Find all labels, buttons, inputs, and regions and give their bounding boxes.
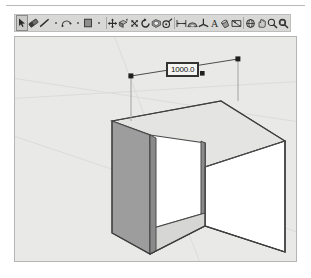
chevron-down-icon [98, 22, 100, 24]
tool-protractor[interactable] [187, 15, 198, 31]
dimension-value-box[interactable]: 1000.0 [166, 62, 199, 77]
tool-eraser[interactable] [28, 15, 39, 31]
line-icon [39, 18, 50, 28]
tool-pan[interactable] [256, 15, 267, 31]
tool-rectangle-dropdown[interactable] [94, 15, 105, 31]
model-scene [15, 37, 296, 261]
dimension-icon [176, 18, 187, 29]
tool-line[interactable] [39, 15, 50, 31]
dimension-endpoint-right[interactable] [235, 56, 240, 61]
titlebar-divider [6, 5, 305, 6]
tool-scale[interactable] [129, 15, 140, 31]
sketchup-window: A [0, 0, 311, 278]
model-viewport[interactable] [14, 36, 297, 262]
chevron-down-icon [77, 22, 79, 24]
dimension-value-label: 1000.0 [171, 65, 194, 74]
zoom-extents-icon [278, 18, 289, 29]
move-icon [107, 18, 118, 29]
tool-zoom[interactable] [267, 15, 278, 31]
tape-measure-icon [162, 18, 173, 29]
pan-icon [256, 18, 267, 29]
orbit-icon [245, 18, 256, 29]
notch-left-thickness [150, 135, 156, 254]
zoom-icon [267, 18, 278, 29]
arc-icon [61, 18, 72, 28]
tool-rectangle[interactable] [83, 15, 94, 31]
tool-paint-bucket[interactable] [220, 15, 231, 31]
select-arrow-icon [18, 18, 27, 28]
dimension-midpoint-grip[interactable] [200, 71, 205, 76]
tool-axes[interactable] [198, 15, 209, 31]
tool-arc[interactable] [61, 15, 72, 31]
left-outer-face [112, 121, 150, 254]
tool-select-arrow[interactable] [16, 15, 28, 31]
tool-tape-measure[interactable] [162, 15, 173, 31]
tool-dimension[interactable] [176, 15, 187, 31]
dimension-endpoint-left[interactable] [128, 73, 133, 78]
notched-box-solid[interactable] [112, 101, 285, 254]
tool-offset[interactable] [151, 15, 162, 31]
tool-arc-dropdown[interactable] [72, 15, 83, 31]
svg-text:A: A [211, 18, 219, 29]
tool-section-plane[interactable] [231, 15, 242, 31]
eraser-icon [28, 18, 39, 28]
rectangle-icon [83, 18, 93, 28]
chevron-down-icon [55, 22, 57, 24]
tool-rotate[interactable] [140, 15, 151, 31]
paint-bucket-icon [220, 18, 231, 29]
pushpull-icon [118, 18, 129, 29]
tool-line-dropdown[interactable] [50, 15, 61, 31]
section-plane-icon [231, 18, 242, 29]
axes-icon [198, 18, 209, 29]
protractor-icon [187, 18, 198, 29]
tool-orbit[interactable] [245, 15, 256, 31]
scale-icon [129, 18, 140, 29]
text-icon: A [209, 18, 220, 29]
tool-move[interactable] [107, 15, 118, 31]
tool-text[interactable]: A [209, 15, 220, 31]
rotate-icon [140, 18, 151, 29]
offset-icon [151, 18, 162, 29]
tool-pushpull[interactable] [118, 15, 129, 31]
main-toolbar[interactable]: A [14, 14, 291, 32]
tool-zoom-extents[interactable] [278, 15, 289, 31]
